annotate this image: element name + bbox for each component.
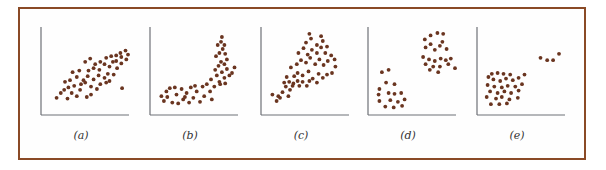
data-point [78,88,82,92]
data-point [214,54,218,58]
data-point [487,75,491,79]
data-point [72,84,76,88]
data-point [490,72,494,76]
data-point [296,71,300,75]
data-point [209,78,213,82]
scatter-plot [255,0,365,125]
data-point [195,90,199,94]
data-point [109,54,113,58]
data-point [205,82,209,86]
data-point [71,70,75,74]
data-point [508,73,512,77]
data-point [119,51,123,55]
scatter-panel-b: (b) [144,0,244,150]
data-point [83,60,87,64]
data-point [63,80,67,84]
data-point [103,62,107,66]
data-point [297,84,301,88]
data-point [494,97,498,101]
data-point [377,93,381,97]
data-point [193,84,197,88]
data-point [104,81,108,85]
data-point [77,69,81,73]
data-point [387,68,391,72]
data-point [318,58,322,62]
data-point [308,56,312,60]
data-point [380,70,384,74]
data-point [304,61,308,65]
data-point [496,91,500,95]
data-point [67,86,71,90]
data-point [221,47,225,51]
data-point [319,34,323,38]
data-point [70,91,74,95]
data-point [282,81,286,85]
data-point [322,63,326,67]
data-point [66,97,70,101]
data-point [88,57,92,61]
data-point [175,93,179,97]
data-point [202,94,206,98]
data-point [508,98,512,102]
data-point [436,31,440,35]
data-point [396,100,400,104]
data-point [311,77,315,81]
data-point [438,65,442,69]
data-point [223,52,227,56]
data-point [516,96,520,100]
data-point [428,68,432,72]
data-point [108,65,112,69]
data-point [517,89,521,93]
scatter-panel-c: (c) [255,0,355,150]
data-point [220,70,224,74]
data-point [429,42,433,46]
scatter-plot [35,0,145,125]
data-point [104,56,108,60]
data-point [423,38,427,42]
data-point [218,51,222,55]
data-point [441,40,445,44]
data-point [384,81,388,85]
scatter-plot [144,0,254,125]
scatter-plot [471,0,581,125]
data-point [295,62,299,66]
data-point [223,62,227,66]
data-point [383,105,387,109]
data-point [185,91,189,95]
data-point [284,85,288,89]
data-point [126,53,130,57]
data-point [539,56,543,60]
data-point [313,62,317,66]
data-point [297,51,301,55]
data-point [317,72,321,76]
scatter-panel-d: (d) [362,0,462,150]
data-point [218,82,222,86]
data-point [439,57,443,61]
data-point [223,43,227,47]
data-point [504,77,508,81]
data-point [306,53,310,57]
data-point [215,74,219,78]
data-point [119,55,123,59]
data-point [111,60,115,64]
data-point [210,98,214,102]
panel-label: (d) [358,129,458,142]
data-point [446,62,450,66]
data-point [403,98,407,102]
data-point [223,82,227,86]
data-point [433,59,437,63]
data-point [307,70,311,74]
data-point [453,66,457,70]
data-point [308,32,312,36]
data-point [112,73,116,77]
data-point [517,76,521,80]
data-point [120,86,124,90]
data-point [95,87,99,91]
data-point [292,82,296,86]
data-point [225,58,229,62]
panel-label: (c) [251,129,351,142]
data-point [486,83,490,87]
data-point [287,94,291,98]
data-point [180,87,184,91]
data-point [325,73,329,77]
